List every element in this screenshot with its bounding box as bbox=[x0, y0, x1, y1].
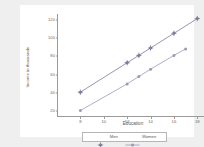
legend-marker-men-icon bbox=[93, 134, 108, 140]
y-tick-label: 40 bbox=[50, 91, 55, 95]
x-axis-title: Education bbox=[57, 122, 204, 127]
series-line-women bbox=[80, 49, 185, 111]
y-tick-label: 60 bbox=[50, 73, 55, 77]
chart-screenshot: Income in thousands 20406080100120 81012… bbox=[0, 0, 204, 147]
y-tick-label: 80 bbox=[50, 54, 55, 58]
data-point-women bbox=[172, 54, 175, 57]
data-point-men bbox=[195, 16, 200, 21]
data-point-women bbox=[126, 82, 129, 85]
x-tick-mark bbox=[151, 117, 152, 119]
data-point-men bbox=[136, 53, 141, 58]
data-point-men bbox=[78, 89, 83, 94]
data-point-men bbox=[171, 31, 176, 36]
chart-canvas: Income in thousands 20406080100120 81012… bbox=[20, 5, 194, 137]
y-axis-ticks: 20406080100120 bbox=[42, 14, 55, 117]
data-point-women bbox=[137, 75, 140, 78]
legend-label-women: Women bbox=[142, 135, 156, 139]
x-tick-mark bbox=[197, 117, 198, 119]
y-tick-label: 120 bbox=[48, 17, 55, 21]
y-axis-title: Income in thousands bbox=[26, 37, 30, 97]
data-point-women bbox=[184, 47, 187, 50]
x-tick-mark bbox=[174, 117, 175, 119]
y-tick-label: 20 bbox=[50, 109, 55, 113]
x-tick-mark bbox=[104, 117, 105, 119]
data-point-women bbox=[79, 109, 82, 112]
legend-label-men: Men bbox=[110, 135, 118, 139]
data-point-men bbox=[148, 45, 153, 50]
plot-series-layer bbox=[57, 14, 204, 117]
x-tick-mark bbox=[127, 117, 128, 119]
legend-marker-women-icon bbox=[125, 134, 140, 140]
legend-item-women: Women bbox=[125, 134, 156, 140]
y-tick-label: 100 bbox=[48, 36, 55, 40]
chart-legend: Men Women bbox=[82, 132, 167, 142]
data-point-men bbox=[124, 60, 129, 65]
legend-item-men: Men bbox=[93, 134, 118, 140]
x-tick-mark bbox=[80, 117, 81, 119]
data-point-women bbox=[149, 68, 152, 71]
